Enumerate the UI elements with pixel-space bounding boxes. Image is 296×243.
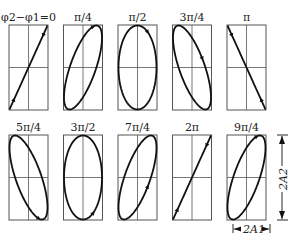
phase-label: 9π/4: [234, 121, 259, 134]
lissajous-panel: φ2−φ1=0: [1, 11, 56, 110]
phase-label: π/2: [129, 11, 147, 24]
lissajous-panel: 3π/2: [64, 121, 103, 220]
lissajous-panel: π: [227, 11, 266, 110]
lissajous-panel: 2π: [173, 121, 212, 220]
lissajous-panel: π/4: [64, 11, 103, 110]
phase-label: φ2−φ1=0: [1, 11, 56, 24]
lissajous-panel: 5π/4: [9, 121, 48, 220]
height-dimension-label: 2A2: [277, 168, 290, 191]
lissajous-diagram: φ2−φ1=0π/4π/23π/4π5π/43π/27π/42π9π/4 2A2…: [0, 0, 296, 243]
lissajous-panel: 9π/4: [227, 121, 266, 220]
lissajous-panel: π/2: [118, 11, 157, 110]
phase-label: 5π/4: [16, 121, 41, 134]
phase-label: 2π: [185, 121, 199, 134]
width-dimension-label: 2A1: [242, 223, 265, 236]
phase-label: π: [243, 11, 250, 24]
lissajous-panel: 7π/4: [118, 121, 157, 220]
width-dimension: 2A1: [233, 222, 270, 236]
lissajous-panel: 3π/4: [173, 11, 212, 110]
height-dimension: 2A2: [276, 135, 290, 220]
phase-label: 7π/4: [125, 121, 150, 134]
phase-label: 3π/4: [180, 11, 205, 24]
phase-label: π/4: [74, 11, 92, 24]
phase-label: 3π/2: [71, 121, 96, 134]
